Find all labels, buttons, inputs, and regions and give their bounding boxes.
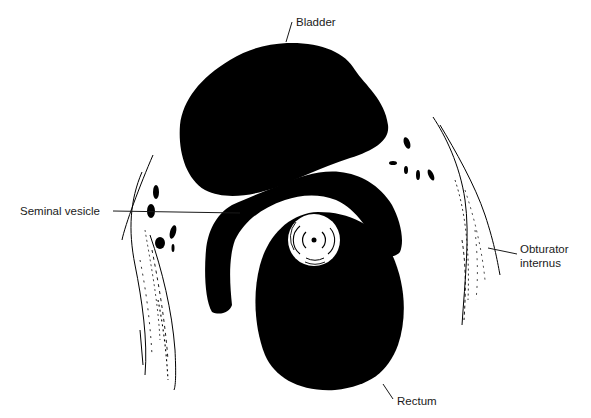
seminal-vesicle-label: Seminal vesicle xyxy=(20,204,100,218)
bladder-label: Bladder xyxy=(296,15,336,29)
obturator-internus-label-line2: internus xyxy=(520,256,561,270)
obturator-internus-label-line1: Obturator xyxy=(520,242,569,256)
rectum-label: Rectum xyxy=(397,394,437,408)
small-vessels-right xyxy=(389,136,436,181)
small-vessels-left xyxy=(147,185,178,252)
right-obturator-internus-shape xyxy=(433,117,500,325)
prostate-urethra-icon xyxy=(288,214,340,266)
obturator-leader-line xyxy=(488,248,517,254)
left-obturator-internus-shape xyxy=(122,155,176,390)
bladder-shape xyxy=(180,43,389,196)
bladder-leader-line xyxy=(286,22,292,42)
rectum-leader-line xyxy=(383,384,393,399)
